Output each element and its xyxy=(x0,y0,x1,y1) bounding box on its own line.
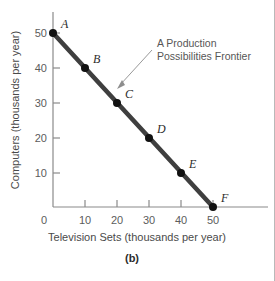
y-axis-tick-labels: 50 40 30 20 10 xyxy=(35,27,47,179)
annotation-leader-line xyxy=(120,50,152,85)
y-tick-label-40: 40 xyxy=(35,62,47,74)
y-tick-label-10: 10 xyxy=(35,167,47,179)
x-tick-label-30: 30 xyxy=(143,214,155,226)
data-point-label-f: F xyxy=(220,191,229,205)
data-point-d xyxy=(145,134,153,142)
data-point-label-b: B xyxy=(93,52,101,66)
x-axis-ticks xyxy=(85,200,213,207)
y-tick-label-30: 30 xyxy=(35,97,47,109)
x-tick-label-10: 10 xyxy=(79,214,91,226)
x-tick-label-20: 20 xyxy=(111,214,123,226)
annotation-label: A Production Possibilities Frontier xyxy=(157,37,251,62)
annotation-text-line-1: A Production xyxy=(157,37,217,49)
x-tick-label-40: 40 xyxy=(175,214,187,226)
data-point-label-c: C xyxy=(125,87,134,101)
data-point-label-d: D xyxy=(156,122,166,136)
y-tick-label-20: 20 xyxy=(35,132,47,144)
x-axis-title: Television Sets (thousands per year) xyxy=(48,231,226,243)
data-point-b xyxy=(81,64,89,72)
data-point-e xyxy=(177,169,185,177)
data-point-a xyxy=(49,29,57,37)
figure-panel-b: 50 40 30 20 10 0 10 20 30 40 50 Televisi… xyxy=(0,0,275,281)
x-tick-label-50: 50 xyxy=(207,214,219,226)
y-tick-label-50: 50 xyxy=(35,27,47,39)
ppf-chart: 50 40 30 20 10 0 10 20 30 40 50 Televisi… xyxy=(0,0,275,281)
y-axis-ticks xyxy=(53,33,60,173)
x-tick-label-0: 0 xyxy=(41,214,47,226)
panel-caption: (b) xyxy=(125,252,139,264)
y-axis-title: Computers (thousands per year) xyxy=(9,31,21,189)
data-point-c xyxy=(113,99,121,107)
data-point-label-a: A xyxy=(60,17,69,31)
annotation-text-line-2: Possibilities Frontier xyxy=(157,50,251,62)
annotation-leader xyxy=(117,50,152,89)
x-axis-tick-labels: 0 10 20 30 40 50 xyxy=(41,214,219,226)
data-point-f xyxy=(209,203,217,211)
data-point-label-e: E xyxy=(188,157,197,171)
